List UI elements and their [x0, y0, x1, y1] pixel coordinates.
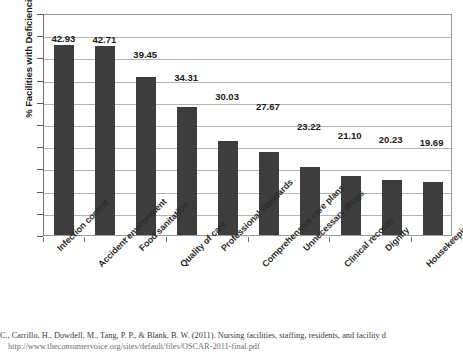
bar-value-label: 34.31 [174, 72, 198, 83]
bar-value-label: 42.71 [92, 34, 116, 45]
x-tick-mark [84, 237, 85, 242]
bar-value-label: 23.22 [297, 121, 321, 132]
x-tick-mark [248, 237, 249, 242]
gridline [44, 15, 451, 16]
bar-chart-figure: % Facilities with Deficiencies 504540353… [0, 0, 463, 357]
bar-value-label: 30.03 [215, 91, 239, 102]
bar-value-label: 39.45 [133, 49, 157, 60]
citation-line-1: C., Carrillo, H., Dowdell, M., Tang, P. … [0, 331, 386, 340]
citation-line-2: http://www.theconsumervoice.org/sites/de… [8, 342, 463, 353]
x-tick-mark [166, 237, 167, 242]
x-tick-mark [329, 237, 330, 242]
x-tick-mark [43, 237, 44, 242]
x-tick-mark [288, 237, 289, 242]
x-tick-mark [207, 237, 208, 242]
bar-value-label: 21.10 [338, 130, 362, 141]
bar-value-label: 42.93 [52, 33, 76, 44]
y-axis-title: % Facilities with Deficiencies [23, 0, 34, 154]
x-tick-mark [125, 237, 126, 242]
source-citation: C., Carrillo, H., Dowdell, M., Tang, P. … [0, 331, 463, 352]
bar-value-label: 19.69 [420, 137, 444, 148]
bar [423, 182, 443, 235]
bar-value-label: 27.67 [256, 101, 280, 112]
bar [54, 45, 74, 235]
bar-value-label: 20.23 [379, 134, 403, 145]
x-tick-mark [411, 237, 412, 242]
x-tick-mark [370, 237, 371, 242]
x-tick-mark [452, 237, 453, 242]
